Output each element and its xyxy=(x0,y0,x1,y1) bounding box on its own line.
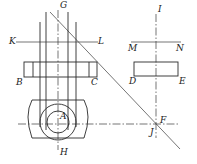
label-L: L xyxy=(98,37,104,46)
label-C: C xyxy=(91,78,98,87)
projection-drawing xyxy=(0,0,197,164)
label-G: G xyxy=(60,1,67,10)
label-B: B xyxy=(16,78,23,87)
label-N: N xyxy=(176,44,184,53)
label-E: E xyxy=(179,77,186,86)
label-J: J xyxy=(150,128,154,137)
label-I: I xyxy=(158,5,162,14)
label-A: A xyxy=(60,112,67,121)
label-H: H xyxy=(60,148,68,157)
diagonal-line xyxy=(50,12,180,149)
label-F: F xyxy=(160,116,166,125)
label-M: M xyxy=(128,44,137,53)
label-D: D xyxy=(129,77,136,86)
rect-B-C xyxy=(24,62,97,77)
label-K: K xyxy=(9,37,16,46)
